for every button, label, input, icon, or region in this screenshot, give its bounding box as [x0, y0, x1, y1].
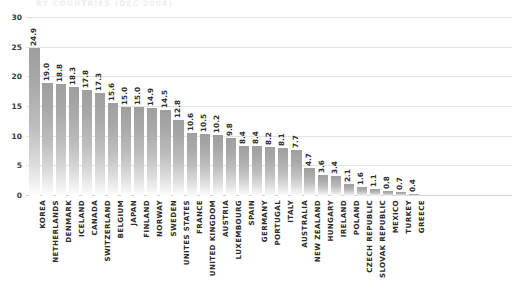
bar-value-label: 19.0 [42, 63, 51, 81]
y-axis-tick-label: 5 [0, 161, 22, 170]
bar-group[interactable]: 9.8 [225, 18, 238, 196]
bar[interactable] [108, 103, 118, 196]
bar-group[interactable]: 1.1 [369, 18, 382, 196]
chart-page: BY COUNTRIES (DEC 2004) 302520151050 24.… [0, 0, 512, 296]
x-axis-label-slot: ITALY [277, 200, 290, 296]
x-axis-label-slot: AUSTRALIA [290, 200, 303, 296]
x-axis-label-slot: JAPAN [120, 200, 133, 296]
bar[interactable] [226, 138, 236, 196]
x-axis-label-slot: SPAIN [238, 200, 251, 296]
x-axis-label-slot: NEW ZEALAND [303, 200, 316, 296]
bar[interactable] [121, 107, 131, 196]
bar[interactable] [187, 133, 197, 196]
bar-value-label: 8.2 [265, 132, 274, 145]
x-axis-label-slot: NETHERLANDS [41, 200, 54, 296]
x-axis-category-label: GREECE [417, 200, 426, 233]
bar-group[interactable]: 18.8 [54, 18, 67, 196]
bar-value-label: 3.6 [317, 160, 326, 173]
bar-group[interactable]: 1.6 [356, 18, 369, 196]
bar-group[interactable]: 17.3 [94, 18, 107, 196]
bar-value-label: 17.3 [94, 73, 103, 91]
bar[interactable] [42, 83, 52, 196]
bar[interactable] [318, 175, 328, 196]
x-axis-label-slot: FINLAND [133, 200, 146, 296]
x-axis-label-slot: NORWAY [146, 200, 159, 296]
bar-group[interactable]: 8.4 [251, 18, 264, 196]
bar-value-label: 4.7 [304, 153, 313, 166]
x-axis-label-slot: DENMARK [54, 200, 67, 296]
bar[interactable] [357, 187, 367, 196]
bar-group[interactable]: 8.4 [238, 18, 251, 196]
bar-value-label: 12.8 [173, 100, 182, 118]
y-axis-tick-label: 15 [0, 102, 22, 111]
bar[interactable] [82, 90, 92, 196]
bar[interactable] [29, 48, 39, 196]
bar[interactable] [69, 87, 79, 196]
bar-group[interactable]: 3.4 [329, 18, 342, 196]
x-axis-labels: KOREANETHERLANDSDENMARKICELANDCANADASWIT… [26, 200, 512, 296]
bar-group[interactable]: 8.2 [264, 18, 277, 196]
bar-value-label: 10.2 [212, 115, 221, 133]
bar-group[interactable]: 4.7 [303, 18, 316, 196]
bar[interactable] [134, 107, 144, 196]
bar-group[interactable]: 0.7 [395, 18, 408, 196]
bar-group[interactable]: 19.0 [41, 18, 54, 196]
bar[interactable] [160, 110, 170, 196]
bar[interactable] [344, 184, 354, 196]
bar-group[interactable]: 15.6 [107, 18, 120, 196]
bar-group[interactable]: 10.6 [185, 18, 198, 196]
bar[interactable] [383, 191, 393, 196]
bar-group[interactable]: 15.0 [133, 18, 146, 196]
bar[interactable] [147, 108, 157, 196]
bar-group[interactable]: 8.1 [277, 18, 290, 196]
bar-group[interactable]: 17.8 [80, 18, 93, 196]
bar-group[interactable]: 14.9 [146, 18, 159, 196]
bar[interactable] [173, 120, 183, 196]
bar[interactable] [239, 146, 249, 196]
bar-group[interactable]: 10.5 [198, 18, 211, 196]
bar-value-label: 15.0 [134, 87, 143, 105]
x-axis-label-slot: UNITES STATES [172, 200, 185, 296]
bar-group[interactable]: 24.9 [28, 18, 41, 196]
bar-value-label: 15.6 [107, 83, 116, 101]
bar-group[interactable]: 12.8 [172, 18, 185, 196]
bar[interactable] [278, 148, 288, 196]
bar-group[interactable]: 0.8 [382, 18, 395, 196]
bar-value-label: 1.1 [369, 175, 378, 188]
x-axis-label-slot: GERMANY [251, 200, 264, 296]
bar-group[interactable]: 10.2 [211, 18, 224, 196]
bar[interactable] [265, 147, 275, 196]
x-axis-label-slot: IRELAND [329, 200, 342, 296]
chart-title: BY COUNTRIES (DEC 2004) [36, 0, 173, 8]
bar[interactable] [252, 146, 262, 196]
bar-value-label: 14.9 [147, 88, 156, 106]
bar-value-label: 0.8 [382, 176, 391, 189]
bar-value-label: 10.6 [186, 113, 195, 131]
bar-group[interactable]: 2.1 [342, 18, 355, 196]
y-axis-tick-label: 10 [0, 132, 22, 141]
bar-value-label: 17.8 [81, 70, 90, 88]
bar[interactable] [291, 150, 301, 196]
x-axis-label-slot: LUXEMBOURG [225, 200, 238, 296]
bar-group[interactable]: 14.5 [159, 18, 172, 196]
bar[interactable] [200, 134, 210, 196]
bar-value-label: 8.4 [251, 131, 260, 144]
x-axis-label-slot: HUNGARY [316, 200, 329, 296]
bar-group[interactable]: 3.6 [316, 18, 329, 196]
bar[interactable] [396, 192, 406, 196]
bar-group[interactable]: 0.4 [408, 18, 421, 196]
bar[interactable] [370, 189, 380, 196]
bar-value-label: 0.7 [396, 177, 405, 190]
bar[interactable] [331, 176, 341, 196]
bar-value-label: 2.1 [343, 169, 352, 182]
bar[interactable] [213, 135, 223, 196]
x-axis-label-slot: FRANCE [185, 200, 198, 296]
bar-value-label: 18.8 [55, 64, 64, 82]
bar[interactable] [304, 168, 314, 196]
bar-group[interactable]: 15.0 [120, 18, 133, 196]
bar-group[interactable]: 7.7 [290, 18, 303, 196]
bar-group[interactable]: 18.3 [67, 18, 80, 196]
bar[interactable] [95, 93, 105, 196]
bar[interactable] [56, 84, 66, 196]
bar[interactable] [409, 194, 419, 196]
